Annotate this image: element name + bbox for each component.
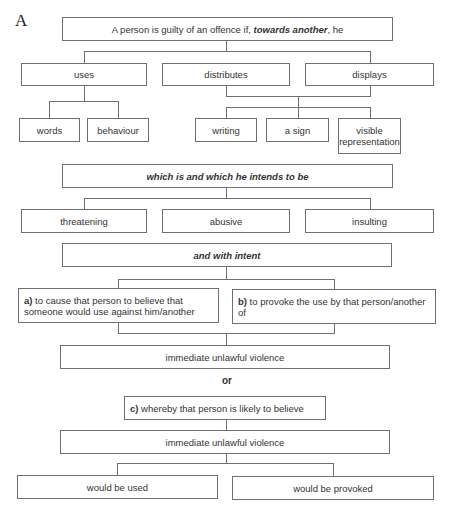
connector <box>117 463 334 464</box>
outcome-label: would be used <box>87 482 148 493</box>
root-text-after: , he <box>327 24 343 35</box>
connector <box>118 101 119 118</box>
connector <box>118 323 119 333</box>
connector <box>49 101 119 102</box>
root-offence-box: A person is guilty of an offence if, tow… <box>62 17 393 41</box>
action-displays-box: displays <box>305 63 434 86</box>
connector <box>84 51 371 52</box>
violence-label: immediate unlawful violence <box>166 352 285 363</box>
connector <box>334 324 335 333</box>
intent-label: and with intent <box>193 250 260 261</box>
quality-label: insulting <box>352 216 387 227</box>
connector <box>49 101 50 118</box>
option-text: to cause that person to believe that som… <box>24 295 195 317</box>
option-marker: b) <box>238 296 247 307</box>
quality-label: threatening <box>60 216 108 227</box>
connector <box>370 198 371 209</box>
connector <box>226 107 227 118</box>
or-label: or <box>215 375 239 386</box>
intent-option-a-box: a) to cause that person to believe that … <box>18 288 219 323</box>
quality-abusive-box: abusive <box>162 209 290 233</box>
display-child-visible-representation-box: visible representation <box>338 118 401 154</box>
connector <box>333 463 334 476</box>
action-distributes-box: distributes <box>162 63 290 86</box>
child-label: words <box>37 125 62 136</box>
connector <box>84 198 85 209</box>
uses-child-words-box: words <box>19 118 80 142</box>
display-child-writing-box: writing <box>195 118 257 142</box>
child-label: behaviour <box>97 125 139 136</box>
connector <box>370 107 371 118</box>
outcome-used-box: would be used <box>17 475 218 499</box>
action-label: displays <box>352 69 386 80</box>
connector <box>334 279 335 289</box>
figure-label: A <box>15 11 27 31</box>
action-label: uses <box>74 69 94 80</box>
connector <box>226 107 371 108</box>
connector <box>118 279 335 280</box>
violence-box-2: immediate unlawful violence <box>60 430 390 454</box>
quality-label: abusive <box>210 216 243 227</box>
display-child-sign-box: a sign <box>266 118 329 142</box>
connector <box>226 333 227 345</box>
child-label: writing <box>212 125 239 136</box>
violence-label: immediate unlawful violence <box>166 437 285 448</box>
intent-option-b-box: b) to provoke the use by that person/ano… <box>232 289 436 324</box>
which-intends-box: which is and which he intends to be <box>62 164 393 188</box>
which-intends-label: which is and which he intends to be <box>146 171 308 182</box>
quality-threatening-box: threatening <box>21 209 147 233</box>
outcome-label: would be provoked <box>293 483 373 494</box>
outcome-provoked-box: would be provoked <box>232 476 434 500</box>
option-text: whereby that person is likely to believe <box>138 403 303 414</box>
connector <box>226 420 227 430</box>
violence-box-1: immediate unlawful violence <box>60 345 390 369</box>
connector <box>370 51 371 63</box>
option-c-box: c) whereby that person is likely to beli… <box>124 396 326 420</box>
quality-insulting-box: insulting <box>305 209 434 233</box>
connector <box>226 267 227 279</box>
uses-child-behaviour-box: behaviour <box>87 118 149 142</box>
child-label: visible representation <box>339 125 400 147</box>
action-uses-box: uses <box>21 63 147 86</box>
child-label: a sign <box>285 125 310 136</box>
connector <box>84 51 85 63</box>
action-label: distributes <box>204 69 247 80</box>
connector <box>117 463 118 475</box>
root-text-before: A person is guilty of an offence if, <box>112 24 254 35</box>
connector <box>84 198 371 199</box>
option-text: to provoke the use by that person/anothe… <box>238 296 425 318</box>
root-text-emphasis: towards another <box>254 24 328 35</box>
connector <box>84 86 85 101</box>
intent-box: and with intent <box>62 243 392 267</box>
connector <box>118 279 119 288</box>
